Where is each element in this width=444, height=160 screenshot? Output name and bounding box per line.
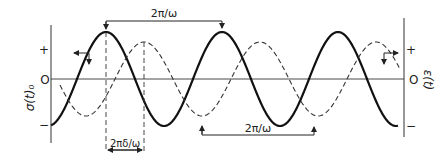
right-tick-zero: O — [409, 73, 418, 87]
right-tick-minus: − — [406, 119, 416, 133]
top-period-bracket — [106, 21, 222, 28]
left-tick-zero: O — [40, 73, 49, 87]
phase-lag-label: 2πδ/ω — [110, 138, 140, 149]
left-axis-label: σ(t)₀ — [23, 85, 37, 112]
diagram-canvas: 2π/ω 2π/ω 2πδ/ω + O − σ(t)₀ + O − ε(t) — [0, 0, 444, 160]
right-tick-plus: + — [406, 43, 416, 57]
right-axis-label: ε(t) — [421, 70, 435, 91]
bottom-period-label: 2π/ω — [245, 122, 272, 135]
left-tick-minus: − — [39, 118, 49, 132]
left-tick-plus: + — [39, 43, 49, 57]
top-period-label: 2π/ω — [151, 7, 178, 20]
